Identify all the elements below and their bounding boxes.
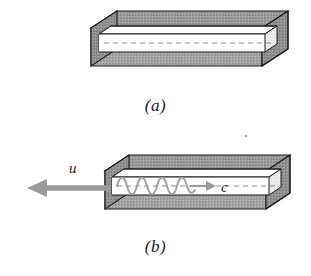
waveguide-figure-svg (0, 0, 311, 276)
figure-container: u c (a) (b) (0, 0, 311, 276)
light-speed-label-c: c (221, 179, 228, 196)
panel-a-waveguide (91, 11, 288, 66)
velocity-label-u: u (69, 160, 77, 177)
print-artifact-dot (245, 135, 247, 137)
panel-b-waveguide (27, 135, 290, 209)
velocity-arrowhead-icon (27, 179, 47, 197)
panel-a-top-face (91, 11, 288, 28)
panel-a-caption: (a) (0, 96, 311, 116)
panel-b-caption: (b) (0, 237, 311, 257)
panel-b-cavity-inner-top (112, 169, 281, 177)
panel-a-cavity-inner-top (99, 26, 277, 34)
